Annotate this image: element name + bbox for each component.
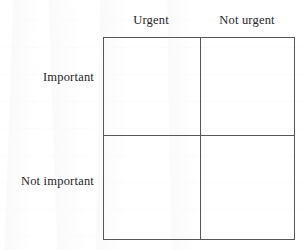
quadrant-not-important-urgent[interactable]: [104, 136, 200, 241]
eisenhower-matrix-figure: Urgent Not urgent Important Not importan…: [0, 0, 306, 250]
quadrant-important-not-urgent[interactable]: [200, 38, 296, 135]
column-header-not-urgent: Not urgent: [199, 13, 295, 28]
quadrant-important-urgent[interactable]: [104, 38, 200, 135]
row-header-important: Important: [43, 70, 94, 85]
column-header-urgent: Urgent: [103, 13, 199, 28]
row-header-not-important: Not important: [21, 174, 94, 189]
quadrant-not-important-not-urgent[interactable]: [200, 136, 296, 241]
horizontal-divider-line: [104, 135, 294, 136]
matrix-grid: [103, 37, 295, 240]
vertical-divider-line: [200, 38, 201, 239]
